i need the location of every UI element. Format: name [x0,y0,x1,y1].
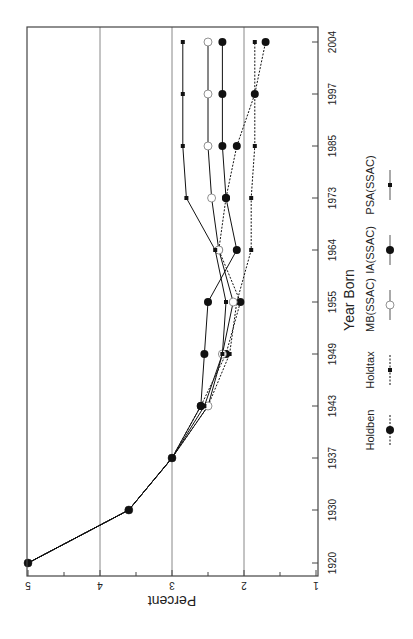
x-tick-label: 1949 [327,342,338,365]
y-tick-label: 3 [169,580,175,591]
x-tick-label: 1920 [327,551,338,574]
legend-label: Holdtax [364,351,376,389]
marker-square [181,92,185,96]
marker-open-circle [208,194,216,202]
marker-square [127,508,131,512]
legend-item: PSA(SSAC) [364,155,392,214]
x-axis-title: Year Born [341,269,357,331]
marker-square [202,404,206,408]
marker-open-circle [229,298,237,306]
series-psassac [26,40,228,565]
plot-area [24,27,270,576]
x-tick-label: 1973 [327,186,338,209]
x-tick-label: 2004 [327,30,338,53]
marker-filled-circle [233,246,241,254]
marker-square [253,144,257,148]
marker-square [253,92,257,96]
marker-filled-circle [222,194,230,202]
x-tick-label: 1997 [327,82,338,105]
marker-filled-circle [200,350,208,358]
marker-square [220,352,224,356]
x-tick-label: 1943 [327,394,338,417]
x-tick-label: 1930 [327,498,338,521]
legend-label: IA(SSAC) [364,226,376,274]
marker-square [249,248,253,252]
legend-item: MB(SSAC) [364,278,394,332]
marker-square [170,456,174,460]
marker-open-circle [204,90,212,98]
legend: HoldbenHoldtaxMB(SSAC)IA(SSAC)PSA(SSAC) [364,155,394,450]
series-line [28,42,226,563]
marker-open-circle [204,142,212,150]
marker-square [213,248,217,252]
legend-item: IA(SSAC) [364,226,394,274]
marker-square [181,144,185,148]
marker-filled-circle [218,38,226,46]
y-tick-label: 4 [97,580,103,591]
x-tick-label: 1985 [327,134,338,157]
legend-item: Holdben [364,410,394,451]
marker-filled-circle [386,426,394,434]
marker-filled-circle [218,142,226,150]
marker-filled-circle [233,142,241,150]
marker-square [184,196,188,200]
legend-label: PSA(SSAC) [364,155,376,214]
y-tick-label: 5 [25,580,31,591]
marker-square [181,40,185,44]
marker-filled-circle [386,246,394,254]
marker-square [224,300,228,304]
y-tick-label: 1 [313,580,319,591]
marker-square [228,352,232,356]
marker-open-circle [386,301,394,309]
marker-filled-circle [204,298,212,306]
marker-square [388,183,392,187]
legend-label: MB(SSAC) [364,278,376,332]
axes: 12345Percent1920193019371943194919551964… [25,27,357,609]
marker-square [249,196,253,200]
y-tick-label: 2 [241,580,247,591]
x-tick-label: 1955 [327,290,338,313]
series-line [28,42,255,563]
marker-square [253,40,257,44]
marker-open-circle [204,38,212,46]
series-line [28,42,233,563]
legend-item: Holdtax [364,351,392,389]
marker-filled-circle [218,90,226,98]
rotated-line-chart: 12345Percent1920193019371943194919551964… [0,0,413,639]
x-tick-label: 1937 [327,446,338,469]
x-tick-label: 1964 [327,238,338,261]
marker-square [388,368,392,372]
y-axis-title: Percent [148,593,196,609]
legend-label: Holdben [364,410,376,451]
marker-filled-circle [262,38,270,46]
